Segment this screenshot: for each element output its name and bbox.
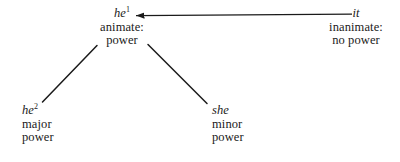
node-he2-head: he2 [22, 104, 54, 118]
node-he2-superscript: 2 [34, 102, 38, 111]
node-he2: he2 major power [22, 104, 54, 145]
node-he2-line-1: major [22, 118, 54, 132]
node-he1-line-1: animate: [100, 21, 144, 35]
arrow-it-to-he1 [136, 14, 352, 15]
branch-he1-to-she [148, 45, 207, 104]
node-he2-line-2: power [22, 131, 54, 145]
node-it-line-2: no power [329, 34, 383, 48]
node-it: it inanimate: no power [329, 7, 383, 48]
node-he1-head: he1 [100, 7, 144, 21]
node-she-head: she [212, 104, 244, 118]
branch-he1-to-he2 [43, 46, 98, 103]
node-it-head: it [329, 7, 383, 21]
node-he1-superscript: 1 [126, 5, 130, 14]
node-he1: he1 animate: power [100, 7, 144, 48]
node-it-line-1: inanimate: [329, 21, 383, 35]
node-she-line-1: minor [212, 118, 244, 132]
node-she: she minor power [212, 104, 244, 145]
pronoun-tree-diagram: he1 animate: power it inanimate: no powe… [0, 0, 400, 162]
node-he1-line-2: power [100, 34, 144, 48]
node-she-line-2: power [212, 131, 244, 145]
